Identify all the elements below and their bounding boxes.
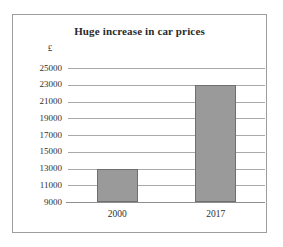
plot-area: [68, 68, 265, 202]
gridline: [68, 68, 265, 69]
x-tick-label: 2017: [186, 209, 246, 219]
y-tick-label: 21000: [18, 97, 62, 106]
y-tick-label: 9000: [18, 198, 62, 207]
y-tick-label: 11000: [18, 181, 62, 190]
y-axis-tick-labels: 2500023000210001900017000150001300011000…: [16, 0, 62, 247]
y-tick-label: 13000: [18, 164, 62, 173]
chart-figure: Huge increase in car prices £ 2500023000…: [0, 0, 283, 247]
y-tick-label: 25000: [18, 64, 62, 73]
bar-2000: [97, 169, 138, 203]
y-tick-label: 23000: [18, 80, 62, 89]
x-axis-baseline: [66, 202, 265, 203]
x-tick-label: 2000: [87, 209, 147, 219]
bar-2017: [195, 85, 236, 202]
y-tick-label: 15000: [18, 147, 62, 156]
y-tick-label: 19000: [18, 114, 62, 123]
y-tick-label: 17000: [18, 131, 62, 140]
